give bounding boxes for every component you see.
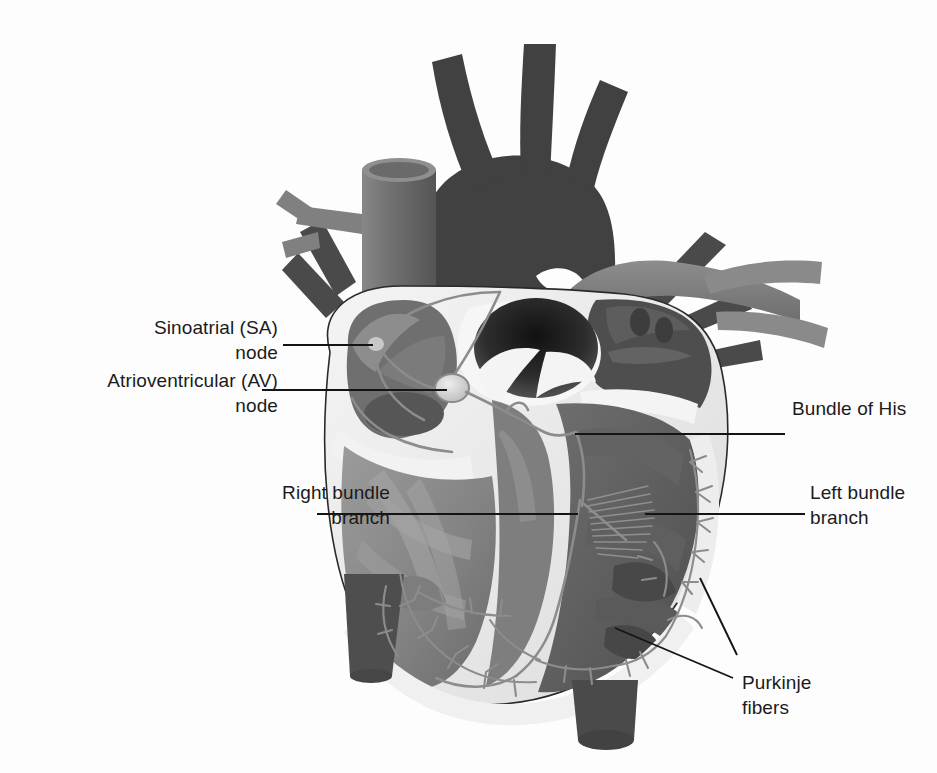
label-bundle-of-his: Bundle of His <box>792 396 937 421</box>
label-sa-node: Sinoatrial (SA) node <box>28 315 278 365</box>
label-purkinje-fibers: Purkinje fibers <box>742 670 902 720</box>
leader-purkinje-upper <box>700 578 737 655</box>
heart-conduction-diagram: Sinoatrial (SA) node Atrioventricular (A… <box>0 0 937 773</box>
label-left-bundle-branch: Left bundle branch <box>810 480 937 530</box>
label-av-node: Atrioventricular (AV) node <box>8 368 278 418</box>
label-right-bundle-branch: Right bundle branch <box>180 480 390 530</box>
sa-node-body <box>368 337 384 351</box>
